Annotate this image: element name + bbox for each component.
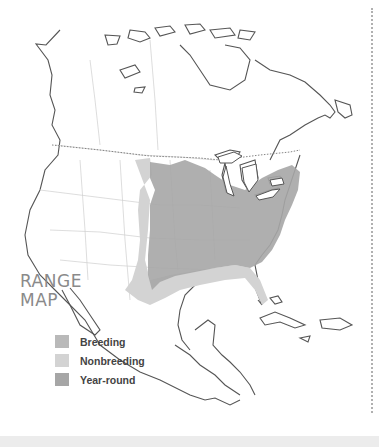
legend-label: Year-round — [80, 374, 135, 386]
us-canada-border — [52, 145, 300, 160]
range-map-title: RANGE MAP — [20, 272, 82, 310]
breeding-swatch — [55, 335, 69, 348]
title-line-1: RANGE — [20, 272, 82, 291]
legend-label: Breeding — [80, 336, 126, 348]
panel-dotted-border — [371, 8, 373, 413]
bottom-strip — [0, 436, 379, 447]
year-round-swatch — [55, 373, 69, 386]
title-line-2: MAP — [20, 291, 82, 310]
legend-label: Nonbreeding — [80, 355, 145, 367]
nonbreeding-swatch — [55, 354, 69, 367]
legend: Breeding Nonbreeding Year-round — [55, 332, 145, 389]
legend-item-nonbreeding: Nonbreeding — [55, 351, 145, 370]
legend-item-breeding: Breeding — [55, 332, 145, 351]
legend-item-year-round: Year-round — [55, 370, 145, 389]
